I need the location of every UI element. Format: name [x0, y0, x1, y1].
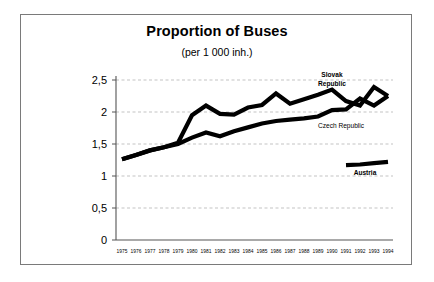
y-tick-label-1: 1	[101, 170, 107, 182]
x-tick-label-1985: 1985	[257, 249, 268, 254]
x-tick-label-1983: 1983	[229, 249, 240, 254]
y-tick-label-1-5: 1,5	[92, 138, 107, 150]
series-label-czech-republic: Czech Republic	[318, 122, 365, 130]
x-tick-labels: 1975 1976 1977 1978 1979 1980 1981 1982 …	[117, 249, 394, 254]
y-tick-marks	[112, 80, 116, 240]
series-label-slovak-republic-line2: Republic	[318, 80, 346, 88]
chart-frame: Proportion of Buses (per 1 000 inh.)	[20, 14, 412, 265]
x-tick-label-1993: 1993	[369, 249, 380, 254]
x-tick-label-1982: 1982	[215, 249, 226, 254]
x-tick-label-1975: 1975	[117, 249, 128, 254]
x-tick-label-1977: 1977	[145, 249, 156, 254]
x-tick-label-1979: 1979	[173, 249, 184, 254]
x-tick-label-1992: 1992	[355, 249, 366, 254]
y-tick-label-0: 0	[101, 234, 107, 246]
y-tick-label-2: 2	[101, 106, 107, 118]
x-tick-label-1981: 1981	[201, 249, 212, 254]
series-label-slovak-republic-line1: Slovak	[321, 71, 343, 78]
x-tick-label-1990: 1990	[327, 249, 338, 254]
series-label-austria: Austria	[354, 169, 377, 176]
y-tick-label-2-5: 2,5	[92, 74, 107, 86]
gridlines	[116, 80, 393, 208]
x-tick-label-1988: 1988	[299, 249, 310, 254]
plot-area: 2,5 2 1,5 1 0,5 0 1975 1976 1977 1978 19…	[21, 15, 413, 266]
series-line-austria	[346, 162, 388, 165]
x-tick-label-1986: 1986	[271, 249, 282, 254]
x-tick-label-1976: 1976	[131, 249, 142, 254]
x-tick-label-1980: 1980	[187, 249, 198, 254]
x-tick-label-1984: 1984	[243, 249, 254, 254]
chart-figure: Proportion of Buses (per 1 000 inh.)	[0, 0, 434, 282]
x-tick-label-1989: 1989	[313, 249, 324, 254]
x-tick-label-1978: 1978	[159, 249, 170, 254]
x-tick-label-1991: 1991	[341, 249, 352, 254]
axis-lines	[116, 76, 393, 240]
x-tick-label-1987: 1987	[285, 249, 296, 254]
y-tick-label-0-5: 0,5	[92, 202, 107, 214]
x-tick-label-1994: 1994	[383, 249, 394, 254]
